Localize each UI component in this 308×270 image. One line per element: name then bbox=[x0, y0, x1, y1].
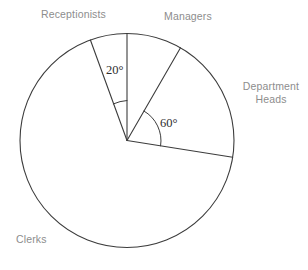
divider-department-heads-clerks bbox=[127, 141, 233, 158]
slice-label-department-heads: Department Heads bbox=[240, 80, 302, 105]
slice-label-receptionists: Receptionists bbox=[41, 8, 106, 21]
angle-annotation-60-degrees: 60° bbox=[160, 117, 178, 130]
pie-chart-graphic bbox=[0, 0, 308, 270]
angle-arc-20 bbox=[113, 101, 127, 104]
slice-label-clerks: Clerks bbox=[16, 233, 47, 246]
divider-clerks-receptionists bbox=[90, 40, 127, 141]
angle-annotation-20-degrees: 20° bbox=[106, 64, 124, 77]
slice-label-managers: Managers bbox=[164, 10, 212, 23]
pie-chart-figure: Receptionists Managers Department Heads … bbox=[0, 0, 308, 270]
angle-arc-60 bbox=[144, 111, 161, 146]
